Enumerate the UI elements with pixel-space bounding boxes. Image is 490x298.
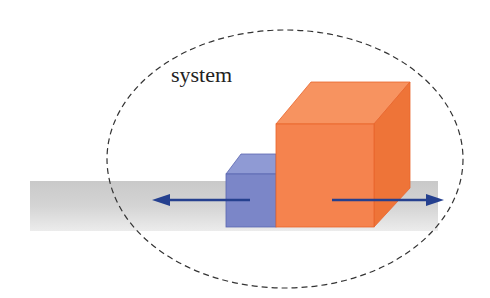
small-block: [226, 154, 276, 227]
system-label: system: [171, 62, 232, 88]
diagram: system: [0, 0, 490, 298]
large-block: [276, 82, 410, 227]
